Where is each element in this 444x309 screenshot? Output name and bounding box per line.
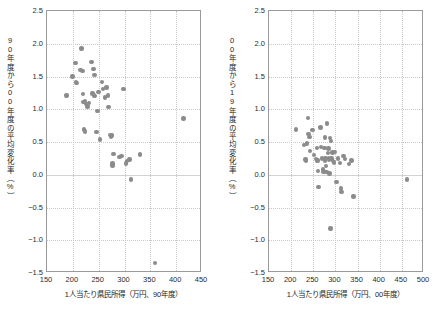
data-point bbox=[329, 139, 333, 143]
chart-panel-right: 150200250300350400450500 −1.5−1.0−0.50.0… bbox=[222, 0, 444, 309]
scatter-figure: 150200250300350400450 −1.5−1.0−0.50.00.5… bbox=[0, 0, 444, 309]
data-point bbox=[87, 101, 91, 105]
y-tick-label: 0.0 bbox=[21, 169, 43, 178]
data-point bbox=[73, 61, 77, 65]
data-point bbox=[79, 46, 83, 50]
gridline-horizontal bbox=[47, 142, 200, 143]
y-tick-label: 1.0 bbox=[21, 104, 43, 113]
data-point bbox=[338, 161, 342, 165]
y-tick-label: 1.5 bbox=[243, 71, 265, 80]
x-tick-label: 250 bbox=[306, 275, 319, 284]
data-point bbox=[83, 129, 87, 133]
x-axis-label-right: 1人当たり県民所得（万円、00年度） bbox=[268, 288, 423, 299]
data-point bbox=[323, 135, 327, 139]
x-tick-label: 350 bbox=[143, 275, 156, 284]
y-tick-label: 2.0 bbox=[21, 38, 43, 47]
x-tick-label: 400 bbox=[169, 275, 182, 284]
y-tick-label: −1.5 bbox=[21, 268, 43, 277]
data-point bbox=[328, 226, 332, 230]
data-point bbox=[310, 128, 314, 132]
gridline-horizontal bbox=[269, 44, 422, 45]
y-tick-label: 0.5 bbox=[21, 137, 43, 146]
gridline-vertical bbox=[380, 11, 381, 271]
y-tick-label: 1.5 bbox=[21, 71, 43, 80]
data-point bbox=[138, 152, 142, 156]
gridline-vertical bbox=[291, 11, 292, 271]
y-axis-label-right: 00年度から19年度の平均変化率（%） bbox=[228, 36, 236, 201]
data-point bbox=[336, 156, 340, 160]
data-point bbox=[343, 157, 347, 161]
data-point bbox=[405, 177, 409, 181]
data-point bbox=[89, 60, 93, 64]
data-point bbox=[333, 150, 337, 154]
plot-area-right bbox=[269, 11, 422, 271]
y-tick-label: 2.0 bbox=[243, 38, 265, 47]
data-point bbox=[96, 90, 100, 94]
y-tick-label: 2.5 bbox=[21, 6, 43, 15]
data-point bbox=[129, 177, 133, 181]
x-tick-label: 250 bbox=[91, 275, 104, 284]
gridline-horizontal bbox=[47, 109, 200, 110]
data-point bbox=[307, 135, 311, 139]
x-tick-label: 200 bbox=[284, 275, 297, 284]
data-point bbox=[121, 87, 125, 91]
data-point bbox=[339, 190, 343, 194]
data-point bbox=[100, 80, 104, 84]
gridline-horizontal bbox=[269, 142, 422, 143]
gridline-horizontal bbox=[269, 208, 422, 209]
data-point bbox=[332, 160, 336, 164]
data-point bbox=[127, 157, 131, 161]
gridline-vertical bbox=[125, 11, 126, 271]
y-tick-label: 1.0 bbox=[243, 104, 265, 113]
gridline-vertical bbox=[150, 11, 151, 271]
data-point bbox=[318, 125, 322, 129]
x-tick-label: 350 bbox=[350, 275, 363, 284]
data-point bbox=[305, 141, 309, 145]
data-point bbox=[327, 171, 331, 175]
plot-frame-right bbox=[268, 10, 423, 272]
gridline-vertical bbox=[176, 11, 177, 271]
gridline-horizontal bbox=[269, 240, 422, 241]
data-point bbox=[85, 104, 89, 108]
data-point bbox=[316, 169, 320, 173]
x-tick-label: 300 bbox=[117, 275, 130, 284]
data-point bbox=[104, 85, 108, 89]
gridline-vertical bbox=[73, 11, 74, 271]
data-point bbox=[325, 121, 329, 125]
x-tick-label: 400 bbox=[372, 275, 385, 284]
data-point bbox=[75, 81, 79, 85]
x-tick-label: 200 bbox=[66, 275, 79, 284]
y-tick-label: −0.5 bbox=[243, 202, 265, 211]
data-point bbox=[306, 116, 310, 120]
x-tick-label: 300 bbox=[328, 275, 341, 284]
y-tick-label: 2.5 bbox=[243, 6, 265, 15]
data-point bbox=[98, 137, 102, 141]
gridline-horizontal bbox=[47, 44, 200, 45]
data-point bbox=[110, 163, 114, 167]
y-tick-label: 0.0 bbox=[243, 169, 265, 178]
gridline-horizontal bbox=[47, 175, 200, 176]
data-point bbox=[347, 162, 351, 166]
x-tick-label: 450 bbox=[395, 275, 408, 284]
data-point bbox=[80, 69, 84, 73]
chart-panel-left: 150200250300350400450 −1.5−1.0−0.50.00.5… bbox=[0, 0, 222, 309]
data-point bbox=[119, 154, 123, 158]
plot-frame-left bbox=[46, 10, 201, 272]
data-point bbox=[351, 194, 355, 198]
data-point bbox=[181, 116, 185, 120]
x-tick-label: 500 bbox=[417, 275, 430, 284]
y-tick-label: −1.5 bbox=[243, 268, 265, 277]
data-point bbox=[93, 94, 97, 98]
x-tick-label: 450 bbox=[195, 275, 208, 284]
data-point bbox=[294, 127, 298, 131]
gridline-vertical bbox=[402, 11, 403, 271]
gridline-horizontal bbox=[47, 240, 200, 241]
data-point bbox=[70, 74, 74, 78]
gridline-horizontal bbox=[47, 208, 200, 209]
y-axis-label-left: 90年度から00年度の平均変化率（%） bbox=[6, 36, 14, 201]
y-tick-label: −1.0 bbox=[21, 235, 43, 244]
y-tick-label: −1.0 bbox=[243, 235, 265, 244]
gridline-vertical bbox=[358, 11, 359, 271]
data-point bbox=[106, 93, 110, 97]
data-point bbox=[316, 185, 320, 189]
